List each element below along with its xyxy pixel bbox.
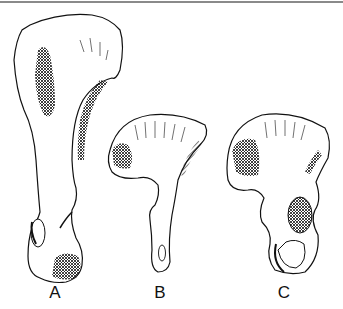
- panel-label-b: B: [150, 284, 170, 302]
- hip-bones-illustration: [0, 0, 343, 309]
- bone-b: [108, 114, 206, 272]
- bone-a: [14, 14, 123, 282]
- panel-label-a: A: [45, 284, 65, 302]
- panel-label-c: C: [274, 284, 294, 302]
- bone-c: [227, 114, 329, 274]
